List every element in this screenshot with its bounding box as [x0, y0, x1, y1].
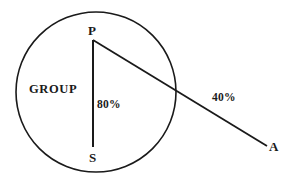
value-label-diagonal-segment: 40% [212, 92, 236, 104]
point-label-p: P [88, 24, 96, 37]
diagram-canvas: P S A GROUP 80% 40% [0, 0, 292, 182]
value-label-vertical-segment: 80% [97, 99, 121, 111]
point-label-a: A [269, 140, 279, 153]
point-label-s: S [89, 151, 96, 164]
segment-p-to-a [93, 40, 267, 146]
region-label-group: GROUP [29, 83, 77, 96]
